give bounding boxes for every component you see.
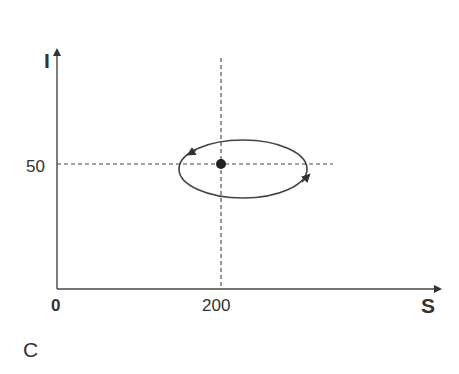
panel-label: C	[23, 338, 38, 361]
x-tick-label: 200	[202, 296, 230, 315]
equilibrium-point	[216, 159, 226, 169]
origin-label: 0	[51, 296, 60, 315]
closed-orbit	[179, 140, 307, 198]
y-tick-label: 50	[26, 157, 45, 176]
x-axis-label: S	[421, 294, 435, 317]
phase-plane-diagram: I 50 0 200 S C	[0, 0, 459, 374]
y-axis-label: I	[44, 49, 50, 72]
